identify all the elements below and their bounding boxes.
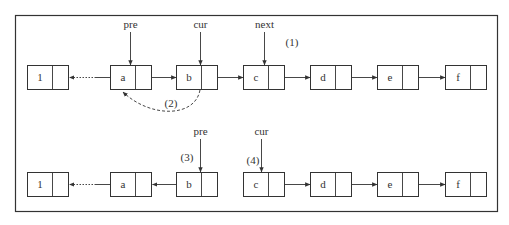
pointer-cur: cur xyxy=(193,18,207,65)
list-node-b: b xyxy=(177,173,218,197)
pointer-label: pre xyxy=(193,125,207,137)
pointer-label: cur xyxy=(254,125,268,137)
list-node-c: c xyxy=(244,66,285,90)
node-label: 1 xyxy=(37,71,43,83)
list-node-a: a xyxy=(111,66,152,90)
node-label: c xyxy=(254,71,259,83)
list-node-1: 1 xyxy=(28,173,69,197)
list-node-a: a xyxy=(111,173,152,197)
node-label: f xyxy=(456,71,460,83)
top-row: 1abcdefprecurnext(1)(2) xyxy=(28,18,487,111)
pointer-pre: pre xyxy=(193,125,207,172)
dashed-reverse-arrow xyxy=(123,90,200,111)
list-node-f: f xyxy=(446,66,487,90)
node-label: f xyxy=(456,178,460,190)
list-node-e: e xyxy=(378,173,419,197)
list-node-d: d xyxy=(311,66,352,90)
step-label: (4) xyxy=(247,154,260,167)
list-node-1: 1 xyxy=(28,66,69,90)
list-node-f: f xyxy=(446,173,487,197)
node-label: 1 xyxy=(37,178,43,190)
list-node-b: b xyxy=(177,66,218,90)
node-label: a xyxy=(121,178,126,190)
node-label: d xyxy=(320,178,326,190)
pointer-label: cur xyxy=(193,18,207,30)
step-label: (2) xyxy=(165,97,178,110)
node-label: b xyxy=(186,178,192,190)
list-node-c: c xyxy=(244,173,285,197)
list-node-d: d xyxy=(311,173,352,197)
pointer-label: next xyxy=(255,18,274,30)
pointer-pre: pre xyxy=(123,18,137,65)
pointer-label: pre xyxy=(123,18,137,30)
pointer-next: next xyxy=(255,18,274,65)
linked-list-reversal-diagram: 1abcdefprecurnext(1)(2) 1abcdefprecur(3)… xyxy=(0,0,509,225)
node-label: e xyxy=(388,71,393,83)
node-label: b xyxy=(186,71,192,83)
node-label: a xyxy=(121,71,126,83)
node-label: e xyxy=(388,178,393,190)
list-node-e: e xyxy=(378,66,419,90)
bottom-row: 1abcdefprecur(3)(4) xyxy=(28,125,487,197)
step-label: (1) xyxy=(286,36,299,49)
node-label: c xyxy=(254,178,259,190)
step-label: (3) xyxy=(181,151,194,164)
node-label: d xyxy=(320,71,326,83)
